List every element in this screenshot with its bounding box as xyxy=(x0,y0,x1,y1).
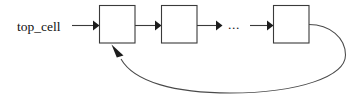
diagram-canvas: top_cell ... xyxy=(0,0,361,105)
ellipsis-label: ... xyxy=(228,17,240,32)
arrow-head-ellipsis-to-cell3 xyxy=(267,21,274,31)
top-cell-label: top_cell xyxy=(17,19,61,34)
arrow-head-label-to-cell1 xyxy=(93,21,100,31)
cell-box-3 xyxy=(274,6,310,44)
cell-box-2 xyxy=(162,6,198,44)
feedback-loop-curve xyxy=(121,25,346,94)
arrow-head-feedback-to-cell1 xyxy=(112,45,124,58)
cell-box-1 xyxy=(100,6,136,44)
arrow-head-cell1-to-cell2 xyxy=(155,21,162,31)
arrow-head-cell2-to-ellipsis xyxy=(216,21,223,31)
hierarchy-loop-diagram: top_cell ... xyxy=(0,0,361,105)
